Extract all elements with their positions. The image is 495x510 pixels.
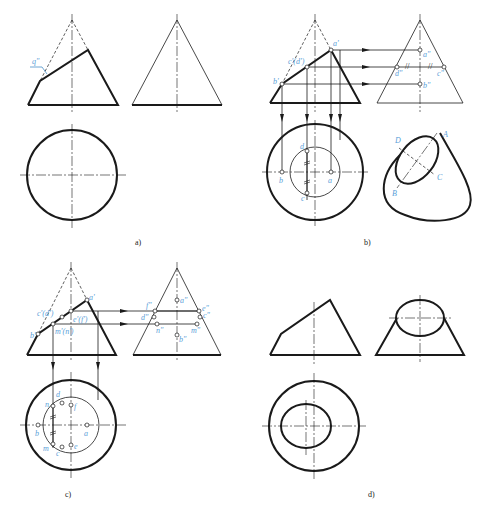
- label-a-prime: a': [333, 39, 339, 48]
- caption-d: d): [368, 490, 375, 499]
- label-a-prime: a': [89, 293, 95, 302]
- label-m: m: [43, 444, 49, 453]
- point-c: [60, 445, 64, 449]
- label-d: d: [56, 390, 61, 399]
- label-B: B: [392, 189, 397, 198]
- point-c-dbl: [198, 315, 202, 319]
- arrow-icon: [362, 48, 370, 52]
- point-a: [85, 423, 89, 427]
- caption-b: b): [364, 238, 371, 247]
- label-f: f: [74, 402, 78, 411]
- label-a: a: [328, 176, 332, 185]
- point-cd: [305, 65, 309, 69]
- point-a: [329, 48, 333, 52]
- panel-b-top-view: d b a c: [262, 120, 370, 226]
- arrow-icon: [280, 114, 284, 122]
- panel-d-top-view: [262, 373, 366, 479]
- removed-edge-right: [71, 268, 87, 300]
- arrow-icon: [329, 114, 333, 122]
- label-b-prime: b': [273, 77, 279, 86]
- point-d: [60, 401, 64, 405]
- point-a-dbl: [418, 48, 422, 52]
- panel-c: a' c'(d') e'(f') m'(n') b' a" f" e" d" c…: [20, 262, 221, 499]
- point-e-dbl: [197, 309, 201, 313]
- label-A: A: [442, 130, 448, 139]
- panel-d-side-view: [376, 295, 464, 362]
- panel-a-side-view: [132, 14, 222, 112]
- panel-a-front-view: q": [28, 14, 118, 112]
- label-n-dbl: n": [156, 326, 164, 335]
- label-n: n: [45, 400, 49, 409]
- panel-a: q" a): [20, 14, 222, 247]
- label-mn-prime: m'(n'): [55, 327, 74, 336]
- removed-edge-right: [72, 20, 88, 50]
- label-d-dbl: d": [395, 69, 403, 78]
- point-b: [280, 82, 284, 86]
- point-mn: [51, 322, 55, 326]
- point-c: [305, 191, 309, 195]
- panel-a-top-view: [20, 124, 126, 228]
- label-a: a: [84, 429, 88, 438]
- label-d-dbl: d": [141, 313, 149, 322]
- point-ef: [69, 309, 73, 313]
- label-ef-prime: e'(f'): [73, 315, 88, 324]
- point-b: [36, 423, 40, 427]
- label-m-dbl: m": [191, 326, 201, 335]
- label-a-dbl: a": [423, 50, 431, 59]
- point-cd: [60, 315, 64, 319]
- label-D: D: [394, 136, 401, 145]
- point-f: [69, 403, 73, 407]
- label-b-dbl: b": [179, 335, 187, 344]
- arrow-icon: [362, 65, 370, 69]
- label-f-dbl: f": [146, 301, 152, 310]
- point-f-dbl: [153, 309, 157, 313]
- arrow-icon: [120, 322, 128, 326]
- truncated-cone-outline: [270, 300, 360, 355]
- arrow-icon: [362, 82, 370, 86]
- label-c-dbl: c": [437, 69, 445, 78]
- removed-edge-left: [282, 20, 315, 84]
- label-a-dbl: a": [180, 296, 188, 305]
- arrow-icon: [305, 114, 309, 122]
- leader-line: [30, 67, 47, 74]
- removed-edge-right: [315, 20, 331, 50]
- label-cd-prime: c'(d'): [37, 309, 54, 318]
- panel-c-top-view: n d f b a m c e: [20, 372, 126, 478]
- label-c: c: [301, 194, 305, 203]
- cone-section-drawing: q" a): [0, 0, 495, 510]
- caption-a: a): [135, 238, 142, 247]
- point-a: [329, 170, 333, 174]
- point-b: [36, 332, 40, 336]
- panel-d: d): [262, 295, 464, 499]
- label-b: b: [35, 429, 39, 438]
- label-b-dbl: b": [423, 81, 431, 90]
- label-c-dbl: c": [203, 311, 211, 320]
- label-b-prime: b': [30, 331, 36, 340]
- cut-plane-label: q": [32, 57, 40, 66]
- label-e: e: [74, 442, 78, 451]
- equal-mark: //: [405, 62, 410, 71]
- label-C: C: [437, 173, 443, 182]
- point-a-dbl: [175, 298, 179, 302]
- point-m: [51, 442, 55, 446]
- point-e: [69, 443, 73, 447]
- arrow-icon: [338, 114, 342, 122]
- point-d: [305, 149, 309, 153]
- panel-b-side-view: a" d" c" b" // //: [377, 14, 463, 112]
- point-d-dbl: [152, 315, 156, 319]
- panel-d-front-view: [270, 300, 360, 365]
- label-b: b: [279, 176, 283, 185]
- point-n: [51, 404, 55, 408]
- arrow-icon: [120, 309, 128, 313]
- arrow-icon: [51, 362, 55, 370]
- label-cd-prime: c'(d'): [288, 57, 305, 66]
- equal-mark: //: [428, 62, 433, 71]
- point-b-dbl: [418, 82, 422, 86]
- caption-c: c): [65, 490, 72, 499]
- point-b: [280, 170, 284, 174]
- label-c: c: [56, 449, 60, 458]
- panel-b: a' c'(d') b' a" d" c" b" // //: [262, 14, 471, 247]
- panel-b-isometric-view: A B C D: [384, 128, 471, 220]
- major-axis-AB: [397, 133, 437, 188]
- arrow-icon: [96, 362, 100, 370]
